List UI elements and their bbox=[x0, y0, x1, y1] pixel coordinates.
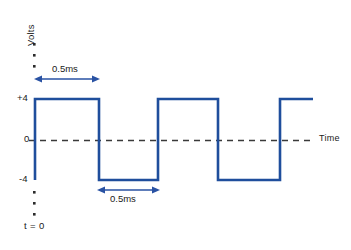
square-wave-figure: Volts +4 0 -4 Time t = 0 0.5ms 0.5ms bbox=[0, 0, 351, 250]
x-axis-label: Time bbox=[319, 134, 340, 143]
high-pulse-dimension-arrow bbox=[34, 76, 100, 83]
high-pulse-duration-label: 0.5ms bbox=[52, 64, 78, 74]
axis-dots-below bbox=[33, 191, 36, 216]
y-tick-label-plus4: +4 bbox=[17, 93, 28, 103]
y-tick-label-minus4: -4 bbox=[19, 174, 27, 184]
origin-time-label: t = 0 bbox=[24, 221, 45, 231]
y-tick-label-zero: 0 bbox=[24, 134, 29, 144]
waveform-plot bbox=[0, 0, 351, 250]
y-axis-label: Volts bbox=[26, 24, 36, 46]
square-wave-trace bbox=[35, 99, 313, 180]
low-pulse-duration-label: 0.5ms bbox=[110, 194, 136, 204]
axis-dots-above bbox=[33, 43, 36, 68]
